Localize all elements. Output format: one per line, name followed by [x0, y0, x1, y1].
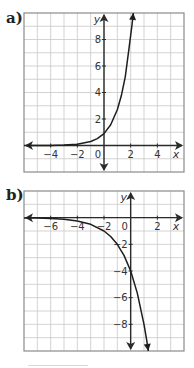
curve-arrow-icon	[144, 344, 151, 351]
x-axis-label: x	[172, 220, 180, 233]
y-axis-label: y	[93, 13, 101, 26]
x-tick-label: −4	[43, 149, 58, 160]
x-tick-label: −6	[43, 221, 58, 232]
x-tick-label: −2	[70, 149, 85, 160]
charts-canvas: −4−20242468xy −6−4−202−2−4−6−8xy	[0, 0, 194, 368]
x-tick-label: 4	[154, 149, 160, 160]
y-tick-label: 2	[95, 114, 101, 125]
y-tick-label: −8	[113, 319, 128, 330]
x-tick-label: 2	[154, 221, 160, 232]
divider	[28, 365, 88, 366]
y-tick-label: 6	[95, 61, 101, 72]
y-tick-label: −6	[113, 292, 128, 303]
graph-a: −4−20242468xy	[24, 13, 184, 172]
y-tick-label: 8	[95, 34, 101, 45]
x-tick-label: −2	[97, 221, 112, 232]
y-tick-label: 4	[95, 87, 101, 98]
x-tick-label: 0	[95, 149, 101, 160]
grid-lines	[24, 191, 184, 351]
y-axis-label: y	[119, 191, 127, 204]
x-tick-label: 0	[121, 221, 127, 232]
graph-b: −6−4−202−2−4−6−8xy	[24, 191, 184, 351]
x-axis-label: x	[172, 148, 180, 161]
y-tick-label: −4	[113, 266, 128, 277]
x-tick-label: 2	[127, 149, 133, 160]
